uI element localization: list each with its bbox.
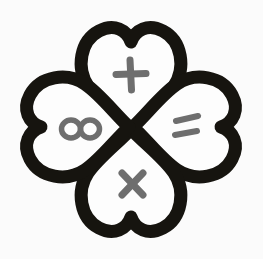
equals-symbol-lower-bar [175,131,197,135]
plus-symbol-horizontal [116,74,146,75]
artboard: Four-heart clover with math symbols + = … [0,0,263,259]
clover-illustration [0,0,263,259]
